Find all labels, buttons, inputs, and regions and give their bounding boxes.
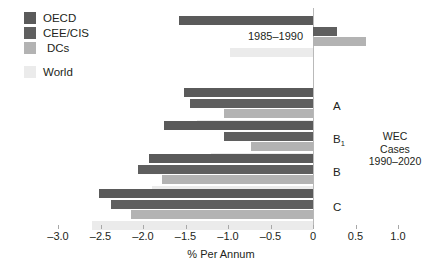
x-tick-mark	[271, 225, 272, 229]
x-tick-mark	[356, 225, 357, 229]
legend-swatch-icon-dcs	[24, 42, 36, 54]
x-tick-mark	[143, 225, 144, 229]
x-tick-mark	[101, 225, 102, 229]
x-tick-mark	[186, 225, 187, 229]
legend-label: CEE/CIS	[43, 27, 89, 39]
x-tick-label: –2.5	[90, 230, 111, 242]
x-tick-mark	[313, 225, 314, 229]
legend-item-dcs[interactable]: DCs	[24, 40, 144, 55]
group-label-b1: B1	[333, 133, 345, 148]
bar-dcs-group-4	[131, 210, 313, 219]
bar-cee-cis-group-3	[138, 165, 313, 174]
period-label-1985-1990: 1985–1990	[248, 30, 303, 42]
legend-swatch-icon-oecd	[24, 12, 36, 24]
bar-dcs-group-3	[162, 175, 313, 184]
wec-note-line-1: WEC	[352, 130, 438, 143]
bar-dcs-group-1	[224, 109, 313, 118]
x-tick-label: –1.5	[175, 230, 196, 242]
wec-cases-note: WEC Cases 1990–2020	[352, 130, 438, 168]
legend-swatch-icon-world	[24, 66, 36, 78]
legend-item-world[interactable]: World	[24, 64, 144, 79]
x-tick-mark	[398, 225, 399, 229]
bar-oecd-group-3	[149, 154, 313, 163]
legend-label: DCs	[43, 42, 69, 54]
bar-world-group-0	[230, 48, 313, 57]
x-tick-label: 0	[310, 230, 316, 242]
bar-oecd-group-4	[99, 189, 313, 198]
x-tick-label: –1.0	[217, 230, 238, 242]
legend-item-oecd[interactable]: OECD	[24, 10, 144, 25]
legend-swatch-icon-cee	[24, 27, 36, 39]
bar-dcs-group-0	[313, 37, 366, 46]
legend-label: OECD	[43, 12, 76, 24]
group-label-b1-main: B	[333, 133, 341, 145]
x-tick-mark	[228, 225, 229, 229]
bar-cee-cis-group-4	[111, 200, 313, 209]
group-label-b1-sub: 1	[341, 139, 345, 148]
bar-oecd-group-1	[184, 88, 313, 97]
x-axis-title: % Per Annum	[0, 248, 442, 260]
bar-dcs-group-2	[251, 142, 313, 151]
group-label-a: A	[333, 100, 341, 112]
chart-container: 1985–1990 A B1 B C WEC Cases 1990–2020 O…	[0, 0, 442, 273]
bar-cee-cis-group-1	[190, 99, 313, 108]
group-label-c: C	[333, 201, 341, 213]
x-tick-label: –3.0	[47, 230, 68, 242]
x-tick-label: 1.0	[390, 230, 405, 242]
x-tick-label: –2.0	[132, 230, 153, 242]
chart-legend: OECDCEE/CISDCsWorld	[24, 10, 144, 79]
group-label-b: B	[333, 166, 341, 178]
wec-note-line-2: Cases	[352, 143, 438, 156]
bar-cee-cis-group-0	[313, 27, 337, 36]
x-tick-label: –0.5	[260, 230, 281, 242]
bar-oecd-group-0	[179, 16, 313, 25]
bar-oecd-group-2	[164, 121, 313, 130]
x-axis: % Per Annum –3.0–2.5–2.0–1.5–1.0–0.500.5…	[0, 225, 442, 273]
legend-item-cee-cis[interactable]: CEE/CIS	[24, 25, 144, 40]
x-tick-mark	[58, 225, 59, 229]
x-tick-label: 0.5	[348, 230, 363, 242]
legend-label: World	[43, 66, 73, 78]
wec-note-line-3: 1990–2020	[352, 155, 438, 168]
plot-area: 1985–1990 A B1 B C WEC Cases 1990–2020 O…	[0, 0, 442, 225]
bar-cee-cis-group-2	[224, 132, 313, 141]
